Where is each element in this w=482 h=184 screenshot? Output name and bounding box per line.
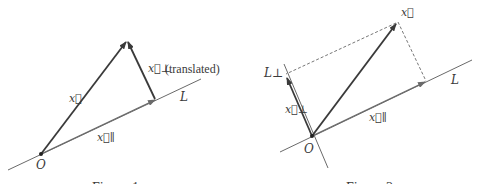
label-x: x⃗ xyxy=(69,92,82,105)
dashed-projection-to-L xyxy=(398,22,426,81)
figure-1-caption: Figure 1 xyxy=(92,180,139,184)
label-L: L xyxy=(450,73,459,87)
label-origin: O xyxy=(304,142,314,156)
label-translated: (translated) xyxy=(165,62,220,76)
origin-dot xyxy=(310,134,314,138)
vector-x-parallel xyxy=(41,100,155,154)
figure-1: x⃗ x⃗⊥ (translated) L O x⃗∥ Figure 1 xyxy=(8,42,220,184)
figure-2-caption: Figure 2 xyxy=(346,180,393,184)
label-x-parallel: x⃗∥ xyxy=(369,111,387,124)
origin-dot xyxy=(39,152,43,156)
vector-x-parallel xyxy=(312,82,425,136)
dashed-projection-to-L-perp xyxy=(286,23,396,74)
figure-2: x⃗ L⊥ x⃗⊥ x⃗∥ L O Figure 2 xyxy=(263,6,472,184)
projection-diagrams: x⃗ x⃗⊥ (translated) L O x⃗∥ Figure 1 x⃗ … xyxy=(0,0,482,184)
label-L: L xyxy=(179,90,188,104)
label-x-parallel: x⃗∥ xyxy=(97,131,115,144)
label-x-perp: x⃗⊥ xyxy=(285,103,308,116)
label-L-perp: L⊥ xyxy=(263,66,283,80)
label-origin: O xyxy=(36,158,46,172)
label-x: x⃗ xyxy=(401,6,414,19)
